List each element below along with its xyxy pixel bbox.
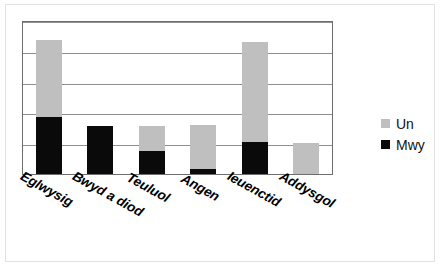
- legend-item-mwy[interactable]: Mwy: [381, 134, 437, 155]
- bar-group: [126, 22, 178, 174]
- bar-segment-un[interactable]: [242, 42, 268, 142]
- chart-legend: Un Mwy: [381, 113, 437, 155]
- bar-group: [229, 22, 281, 174]
- legend-label-mwy: Mwy: [396, 138, 425, 152]
- bar-segment-mwy[interactable]: [139, 151, 165, 174]
- bar-stack-addysgol[interactable]: [293, 143, 319, 174]
- bar-stack-bwyd-a-diod[interactable]: [87, 126, 113, 174]
- legend-label-un: Un: [396, 117, 414, 131]
- bar-segment-un[interactable]: [139, 126, 165, 151]
- bar-segment-un[interactable]: [190, 125, 216, 170]
- bar-group: [75, 22, 127, 174]
- bar-segment-mwy[interactable]: [36, 117, 62, 174]
- bars-layer: [23, 22, 332, 174]
- bar-stack-ieuenctid[interactable]: [242, 42, 268, 174]
- chart-figure: EglwysigBwyd a diodTeuluolAngenIeuenctid…: [0, 0, 444, 272]
- x-axis-label: Angen: [173, 168, 226, 206]
- bar-stack-teuluol[interactable]: [139, 126, 165, 174]
- x-axis-label: Addysgol: [277, 168, 330, 206]
- legend-swatch-un-icon: [381, 119, 390, 128]
- plot-area: [22, 21, 333, 175]
- bar-segment-un[interactable]: [293, 143, 319, 174]
- bar-group: [178, 22, 230, 174]
- bar-segment-un[interactable]: [36, 40, 62, 117]
- bar-segment-mwy[interactable]: [190, 169, 216, 174]
- legend-item-un[interactable]: Un: [381, 113, 437, 134]
- bar-segment-mwy[interactable]: [242, 142, 268, 174]
- x-axis-labels: EglwysigBwyd a diodTeuluolAngenIeuenctid…: [22, 175, 333, 270]
- x-axis-label: Bwyd a diod: [70, 168, 123, 206]
- bar-group: [23, 22, 75, 174]
- bar-segment-mwy[interactable]: [87, 126, 113, 174]
- x-axis-label: Ieuenctid: [225, 168, 278, 206]
- bar-stack-angen[interactable]: [190, 125, 216, 174]
- x-axis-label: Eglwysig: [18, 168, 71, 206]
- bar-group: [281, 22, 333, 174]
- bar-stack-eglwysig[interactable]: [36, 40, 62, 174]
- legend-swatch-mwy-icon: [381, 140, 390, 149]
